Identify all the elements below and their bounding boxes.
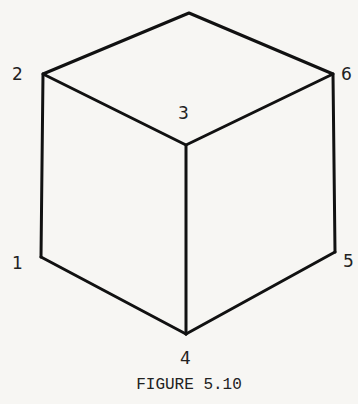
vertex-label-3: 3 [178,103,189,123]
vertex-label-1: 1 [12,253,23,273]
vertex-label-6: 6 [341,64,352,84]
figure-caption: FIGURE 5.10 [0,376,358,394]
cube-diagram [0,0,358,404]
edge-2-1 [41,74,43,257]
vertex-label-5: 5 [343,251,354,271]
top-face [43,13,333,145]
edge-6-5 [333,74,335,252]
vertex-label-2: 2 [12,64,23,84]
edge-1-4 [41,257,186,334]
edge-4-5 [186,252,335,334]
vertex-label-4: 4 [180,348,191,368]
